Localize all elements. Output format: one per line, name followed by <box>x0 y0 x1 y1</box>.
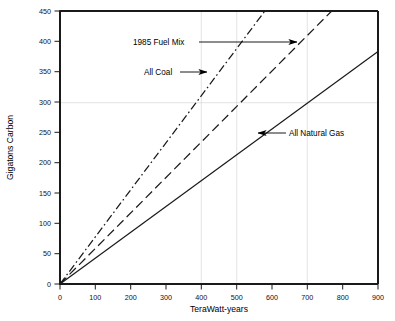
y-tick-label: 400 <box>39 37 51 46</box>
y-tick-label: 250 <box>39 128 51 137</box>
y-axis-title: Gigatons Carbon <box>5 115 15 180</box>
x-tick-label: 900 <box>372 293 384 302</box>
x-tick-label: 100 <box>89 293 101 302</box>
y-tick-label: 450 <box>39 7 51 16</box>
x-tick-label: 500 <box>231 293 243 302</box>
x-axis-title: TeraWatt-years <box>190 304 248 314</box>
y-tick-label: 0 <box>47 280 51 289</box>
x-tick-label: 200 <box>125 293 137 302</box>
y-tick-label: 350 <box>39 67 51 76</box>
y-tick-label: 150 <box>39 189 51 198</box>
x-axis-tick-labels: 0 100 200 300 400 500 600 700 800 900 <box>58 293 384 302</box>
y-axis-tick-labels: 0 50 100 150 200 250 300 350 400 450 <box>39 7 51 289</box>
x-tick-label: 800 <box>337 293 349 302</box>
chart-canvas: 0 50 100 150 200 250 300 350 400 450 0 <box>0 0 395 321</box>
annotation-label-all-coal: All Coal <box>144 68 172 77</box>
annotation-label-1985-fuel-mix: 1985 Fuel Mix <box>133 38 184 47</box>
x-tick-label: 700 <box>301 293 313 302</box>
y-tick-label: 200 <box>39 158 51 167</box>
y-tick-label: 50 <box>43 249 51 258</box>
x-tick-label: 0 <box>58 293 62 302</box>
annotation-label-all-natural-gas: All Natural Gas <box>289 129 344 138</box>
y-tick-label: 100 <box>39 219 51 228</box>
x-tick-label: 300 <box>160 293 172 302</box>
plot-background <box>60 11 378 284</box>
chart-figure: 0 50 100 150 200 250 300 350 400 450 0 <box>0 0 395 321</box>
y-tick-label: 300 <box>39 98 51 107</box>
x-tick-label: 400 <box>195 293 207 302</box>
x-tick-label: 600 <box>266 293 278 302</box>
